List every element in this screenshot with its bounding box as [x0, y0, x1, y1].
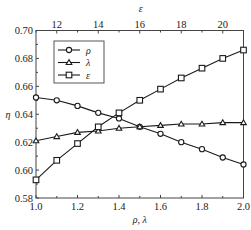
- triangle-marker-icon: [199, 121, 205, 126]
- square-marker-icon: [54, 158, 60, 164]
- triangle-marker-icon: [33, 138, 39, 143]
- x-tick-label: 1.6: [154, 201, 167, 212]
- series-triangle: [33, 120, 246, 143]
- x2-tick-label: 14: [93, 19, 104, 30]
- circle-marker-icon: [220, 155, 225, 160]
- circle-marker-icon: [54, 98, 59, 103]
- square-marker-icon: [220, 56, 226, 62]
- x2-tick-label: 18: [176, 19, 187, 30]
- square-marker-icon: [137, 97, 143, 103]
- eta-line-chart: 1.01.21.41.61.82.012141618200.580.600.62…: [0, 0, 251, 230]
- y-tick-label: 0.62: [15, 137, 33, 148]
- x-tick-label: 1.2: [71, 201, 84, 212]
- circle-marker-icon: [75, 103, 80, 108]
- y-tick-label: 0.64: [15, 109, 34, 120]
- square-marker-icon: [33, 177, 39, 183]
- x-tick-label: 1.4: [112, 201, 126, 212]
- x-axis-label: ρ, λ: [132, 214, 148, 225]
- circle-marker-icon: [116, 116, 121, 121]
- circle-marker-icon: [179, 140, 184, 145]
- triangle-marker-icon: [241, 120, 247, 125]
- y-tick-label: 0.58: [15, 193, 33, 204]
- square-marker-icon: [116, 110, 122, 116]
- circle-marker-icon: [33, 95, 38, 100]
- series-line: [36, 98, 244, 165]
- x2-tick-label: 16: [135, 19, 146, 30]
- triangle-marker-icon: [54, 134, 60, 139]
- x2-tick-label: 20: [218, 19, 229, 30]
- triangle-marker-icon: [178, 121, 184, 126]
- y-axis-label: η: [6, 109, 11, 120]
- x2-axis-label: ε: [139, 3, 143, 14]
- series-circle: [33, 95, 246, 167]
- y-tick-label: 0.68: [15, 53, 33, 64]
- circle-marker-icon: [158, 131, 163, 136]
- circle-marker-icon: [241, 162, 246, 167]
- triangle-marker-icon: [116, 125, 122, 130]
- y-tick-label: 0.60: [15, 165, 33, 176]
- x2-tick-label: 12: [52, 19, 63, 30]
- triangle-marker-icon: [220, 120, 226, 125]
- square-marker-icon: [75, 141, 81, 147]
- axes: 1.01.21.41.61.82.012141618200.580.600.62…: [6, 3, 251, 225]
- legend-label: λ: [85, 57, 91, 68]
- circle-marker-icon: [96, 110, 101, 115]
- square-marker-icon: [66, 72, 72, 78]
- legend-label: ε: [86, 70, 90, 81]
- chart-canvas: 1.01.21.41.61.82.012141618200.580.600.62…: [0, 0, 251, 230]
- square-marker-icon: [241, 47, 247, 53]
- square-marker-icon: [178, 75, 184, 81]
- triangle-marker-icon: [75, 130, 81, 135]
- y-tick-label: 0.66: [15, 81, 33, 92]
- square-marker-icon: [95, 124, 101, 130]
- legend-label: ρ: [85, 45, 91, 56]
- x-tick-label: 1.8: [195, 201, 208, 212]
- legend: ρλε: [54, 41, 104, 83]
- square-marker-icon: [158, 86, 164, 92]
- triangle-marker-icon: [158, 123, 164, 128]
- square-marker-icon: [199, 65, 205, 71]
- circle-marker-icon: [199, 147, 204, 152]
- circle-marker-icon: [66, 47, 71, 52]
- y-tick-label: 0.70: [15, 25, 33, 36]
- x-tick-label: 2.0: [237, 201, 250, 212]
